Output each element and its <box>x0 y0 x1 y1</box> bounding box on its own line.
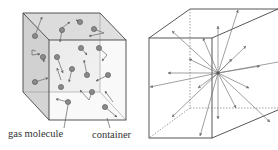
container-label: container <box>92 130 131 141</box>
gas-molecule-label: gas molecule <box>8 129 63 140</box>
central-molecule <box>216 71 219 74</box>
velocity-directions-cube <box>149 9 278 138</box>
velocity-arrows <box>150 10 278 136</box>
gas-container-cube <box>23 13 126 128</box>
